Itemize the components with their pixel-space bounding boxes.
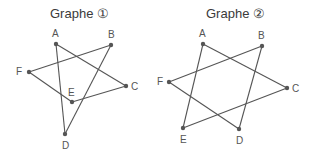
node-D — [237, 127, 241, 131]
node-B — [260, 44, 264, 48]
edge-E-C — [72, 86, 126, 102]
node-label-F: F — [16, 66, 22, 77]
node-label-F: F — [157, 76, 163, 87]
node-C — [285, 86, 289, 90]
node-A — [201, 42, 205, 46]
node-A — [54, 42, 58, 46]
node-label-D: D — [236, 135, 243, 146]
node-F — [27, 70, 31, 74]
node-label-B: B — [258, 30, 265, 41]
graph-2: ABCDEF — [157, 28, 299, 146]
edge-B-D — [239, 46, 262, 129]
edge-A-C — [203, 44, 287, 88]
edge-A-D — [56, 44, 65, 134]
node-label-A: A — [199, 28, 206, 39]
graphs-canvas: ABCDEFABCDEF — [0, 0, 313, 160]
edge-A-C — [56, 44, 126, 86]
node-label-E: E — [68, 87, 75, 98]
edge-E-C — [183, 88, 287, 128]
node-label-D: D — [62, 140, 69, 151]
node-D — [63, 132, 67, 136]
graph-1: ABCDEF — [16, 28, 138, 151]
node-E — [70, 100, 74, 104]
node-B — [109, 43, 113, 47]
edge-F-D — [169, 82, 239, 129]
node-C — [124, 84, 128, 88]
edge-A-E — [183, 44, 203, 128]
node-label-A: A — [52, 28, 59, 39]
node-E — [181, 126, 185, 130]
edge-F-E — [29, 72, 72, 102]
edge-B-F — [169, 46, 262, 82]
node-label-C: C — [131, 81, 138, 92]
node-label-E: E — [180, 134, 187, 145]
node-label-C: C — [292, 83, 299, 94]
node-label-B: B — [108, 29, 115, 40]
node-F — [167, 80, 171, 84]
